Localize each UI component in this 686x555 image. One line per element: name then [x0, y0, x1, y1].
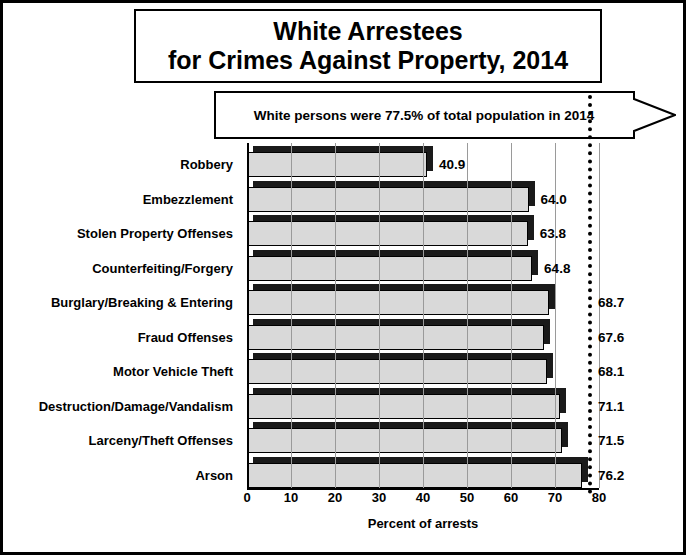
x-tick-10: 10: [284, 490, 298, 505]
bar-face: [247, 394, 560, 419]
page-title-line-2: for Crimes Against Property, 2014: [168, 46, 568, 75]
chart-page: White Arrestees for Crimes Against Prope…: [0, 0, 686, 555]
gridline-30: [379, 143, 380, 488]
bar-value-label-6: 67.6: [598, 325, 624, 350]
bar-value-label-2: 64.0: [541, 187, 567, 212]
bar-value-label-1: 40.9: [439, 152, 465, 177]
bar-side-shadow: [529, 181, 535, 206]
chart-title-box: White Arrestees for Crimes Against Prope…: [134, 9, 602, 83]
x-tick-60: 60: [504, 490, 518, 505]
y-axis-line: [247, 143, 249, 488]
bar-side-shadow: [528, 215, 534, 240]
x-tick-70: 70: [548, 490, 562, 505]
bar-3[interactable]: [247, 221, 528, 246]
bar-5[interactable]: [247, 290, 549, 315]
bar-face: [247, 428, 562, 453]
bar-8[interactable]: [247, 394, 560, 419]
category-label-1: Robbery: [180, 152, 233, 177]
x-tick-50: 50: [460, 490, 474, 505]
category-label-9: Larceny/Theft Offenses: [89, 428, 234, 453]
bar-value-label-5: 68.7: [598, 290, 624, 315]
x-tick-40: 40: [416, 490, 430, 505]
bar-9[interactable]: [247, 428, 562, 453]
page-title-line-1: White Arrestees: [273, 17, 462, 46]
bar-side-shadow: [427, 146, 433, 171]
gridline-20: [335, 143, 336, 488]
x-tick-20: 20: [328, 490, 342, 505]
category-label-8: Destruction/Damage/Vandalism: [39, 394, 233, 419]
bar-value-label-4: 64.8: [544, 256, 570, 281]
bar-face: [247, 187, 529, 212]
x-tick-80: 80: [592, 490, 606, 505]
category-label-7: Motor Vehicle Theft: [113, 359, 233, 384]
bar-side-shadow: [560, 388, 566, 413]
bar-2[interactable]: [247, 187, 529, 212]
bar-face: [247, 256, 532, 281]
bar-side-shadow: [547, 353, 553, 378]
x-tick-0: 0: [243, 490, 250, 505]
gridline-60: [511, 143, 512, 488]
bar-value-label-3: 63.8: [540, 221, 566, 246]
bar-10[interactable]: [247, 463, 582, 488]
bar-face: [247, 221, 528, 246]
callout-banner: White persons were 77.5% of total popula…: [214, 91, 676, 139]
gridline-40: [423, 143, 424, 488]
category-label-6: Fraud Offenses: [138, 325, 233, 350]
bar-side-shadow: [544, 319, 550, 344]
bar-1[interactable]: [247, 152, 427, 177]
category-label-3: Stolen Property Offenses: [77, 221, 233, 246]
bar-side-shadow: [532, 250, 538, 275]
bar-face: [247, 152, 427, 177]
bar-4[interactable]: [247, 256, 532, 281]
bar-face: [247, 463, 582, 488]
callout-text: White persons were 77.5% of total popula…: [214, 91, 634, 139]
bar-value-label-10: 76.2: [598, 463, 624, 488]
bar-side-shadow: [562, 422, 568, 447]
bar-value-label-7: 68.1: [598, 359, 624, 384]
bar-face: [247, 290, 549, 315]
category-label-10: Arson: [195, 463, 233, 488]
gridline-10: [291, 143, 292, 488]
gridline-50: [467, 143, 468, 488]
bar-value-label-8: 71.1: [598, 394, 624, 419]
category-label-4: Counterfeiting/Forgery: [92, 256, 233, 281]
x-tick-30: 30: [372, 490, 386, 505]
category-axis-labels: RobberyEmbezzlementStolen Property Offen…: [3, 143, 241, 488]
category-label-5: Burglary/Breaking & Entering: [51, 290, 233, 315]
bar-value-label-9: 71.5: [598, 428, 624, 453]
reference-line-77-5: [588, 95, 592, 494]
category-label-2: Embezzlement: [143, 187, 233, 212]
x-axis-title: Percent of arrests: [247, 516, 599, 531]
